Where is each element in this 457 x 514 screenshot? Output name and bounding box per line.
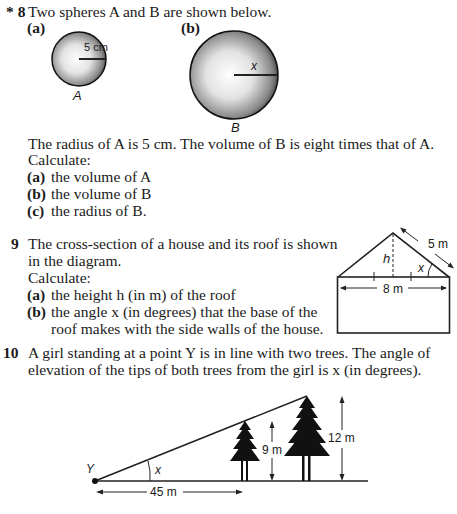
- point-y-label: Y: [86, 462, 94, 476]
- distance-label: 45 m: [150, 485, 177, 499]
- sphere-a-radius-label: 5 cm: [84, 41, 108, 53]
- part-label: (a): [27, 286, 51, 303]
- question-8-statement: The radius of A is 5 cm. The volume of B…: [28, 135, 434, 152]
- part-text: the height h (in m) of the roof: [51, 286, 236, 303]
- part-label: (a): [27, 168, 51, 185]
- question-9-part-b: (b)the angle x (in degrees) that the bas…: [27, 303, 317, 320]
- question-8-part-a: (a)the volume of A: [27, 168, 151, 185]
- question-9-part-b-continued: roof makes with the side walls of the ho…: [51, 320, 323, 337]
- tree1-height-label: 9 m: [262, 443, 282, 457]
- trees-diagram: [92, 396, 368, 495]
- house-height-label: h: [383, 251, 390, 266]
- question-9-calculate: Calculate:: [28, 269, 91, 286]
- part-label: (b): [27, 185, 51, 202]
- question-8-part-c: (c)the radius of B.: [27, 202, 147, 219]
- house-angle-label: x: [418, 261, 424, 275]
- tree-small: [230, 421, 260, 481]
- question-9-number: 9: [11, 235, 19, 252]
- tree-large: [284, 396, 330, 481]
- question-9-intro-line2: in the diagram.: [28, 252, 121, 269]
- question-10-intro-line1: A girl standing at a point Y is in line …: [28, 344, 430, 361]
- part-label: (b): [27, 303, 51, 320]
- sphere-b-name: B: [231, 120, 240, 135]
- part-text: the volume of B: [51, 185, 151, 202]
- house-base-label: 8 m: [382, 282, 404, 296]
- question-9-intro-line1: The cross-section of a house and its roo…: [28, 235, 338, 252]
- elevation-angle-label: x: [155, 463, 161, 477]
- tree2-height-label: 12 m: [328, 431, 355, 445]
- question-10-intro-line2: elevation of the tips of both trees from…: [28, 361, 421, 378]
- question-9-part-a: (a)the height h (in m) of the roof: [27, 286, 236, 303]
- question-8-part-b: (b)the volume of B: [27, 185, 151, 202]
- part-text: the volume of A: [51, 168, 151, 185]
- question-10-number: 10: [3, 344, 19, 361]
- part-text: the angle x (in degrees) that the base o…: [51, 303, 317, 320]
- house-slope-label: 5 m: [428, 237, 448, 251]
- part-text: the radius of B.: [51, 202, 147, 219]
- sphere-a-name: A: [73, 88, 82, 103]
- part-label: (c): [27, 202, 51, 219]
- sphere-b: [190, 31, 278, 119]
- question-8-calculate: Calculate:: [28, 151, 91, 168]
- sphere-b-radius-label: x: [251, 59, 257, 73]
